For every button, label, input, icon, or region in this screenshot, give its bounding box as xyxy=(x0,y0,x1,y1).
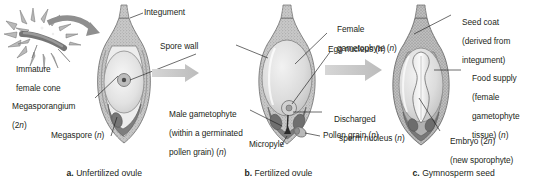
label-spore-wall: Spore wall xyxy=(160,42,198,52)
caption-b: b. Fertilized ovule xyxy=(235,158,312,188)
label-food-supply-line3: gametophyte xyxy=(472,111,519,121)
label-egg-nucleus: Egg nucleus (n) xyxy=(328,45,385,55)
label-megaspore: Megaspore (n) xyxy=(51,131,104,141)
label-female-gametophyte: Female gametophyte (n) xyxy=(328,15,397,63)
caption-a-text: Unfertilized ovule xyxy=(76,168,142,178)
label-female-gametophyte-line1: Female xyxy=(337,24,364,34)
fertilized-ovule-drawing xyxy=(259,5,315,144)
gymnosperm-seed-figure: Immature female cone Megasporangium (2n)… xyxy=(0,0,538,188)
label-megasporangium-line1: Megasporangium xyxy=(12,101,75,111)
arrow-a-to-b xyxy=(152,64,199,82)
caption-b-text: Fertilized ovule xyxy=(255,168,313,178)
caption-a-letter: a. xyxy=(67,168,74,178)
label-male-gametophyte-line2: (within a germinated xyxy=(169,128,243,138)
label-male-gametophyte-line1: Male gametophyte xyxy=(169,109,236,119)
label-male-gametophyte-line3: pollen grain) (n) xyxy=(169,147,226,157)
caption-c-text: Gymnosperm seed xyxy=(422,168,495,178)
label-pollen-grain: Pollen grain (n) xyxy=(323,131,378,141)
label-embryo-line1: Embryo (2n) xyxy=(450,136,495,146)
caption-c: c. Gymnosperm seed xyxy=(403,158,495,188)
label-discharged-line1: Discharged xyxy=(334,114,375,124)
cone-to-ovule-arrow xyxy=(48,18,100,36)
label-seed-coat-line2: (derived from xyxy=(462,36,510,46)
label-food-supply-line2: (female xyxy=(472,92,499,102)
label-seed-coat-line1: Seed coat xyxy=(462,17,499,27)
caption-c-letter: c. xyxy=(413,168,420,178)
unfertilized-ovule-drawing xyxy=(98,5,151,143)
caption-a: a. Unfertilized ovule xyxy=(57,158,142,188)
label-megasporangium-line2: (2n) xyxy=(12,120,27,130)
label-micropyle: Micropyle xyxy=(249,140,284,150)
label-immature-line1: Immature xyxy=(16,64,51,74)
label-discharged-sperm-nucleus: Discharged sperm nucleus (n) xyxy=(325,105,405,153)
label-male-gametophyte: Male gametophyte (within a germinated po… xyxy=(160,100,243,167)
label-food-supply-line1: Food supply xyxy=(472,73,517,83)
label-integument: Integument xyxy=(144,8,185,18)
